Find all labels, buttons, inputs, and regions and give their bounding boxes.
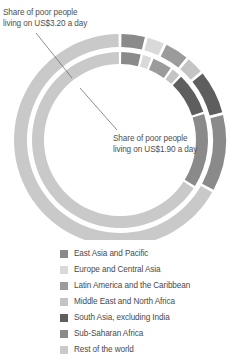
legend-swatch (60, 346, 68, 354)
donut-segment: Share of poor people living on US$3.20 a… (121, 34, 145, 50)
nested-donut-chart: Share of poor people living on US$3.20 a… (0, 0, 232, 240)
donut-segment: Share of poor people living on US$3.20 a… (144, 38, 163, 56)
donut-segment: Share of poor people living on US$3.20 a… (161, 45, 187, 68)
legend-item: Middle East and North Africa (60, 294, 232, 310)
chart-page: Share of poor people living on US$3.20 a… (0, 0, 232, 363)
legend-label: Sub-Saharan Africa (74, 329, 143, 339)
callout-outer-ring: Share of poor people living on US$3.20 a… (3, 7, 87, 29)
legend-label: South Asia, excluding India (74, 313, 170, 323)
legend-item: Rest of the world (60, 342, 232, 358)
donut-segment: Share of poor people living on US$1.90 a… (121, 52, 141, 66)
legend-item: Europe and Central Asia (60, 262, 232, 278)
legend-swatch (60, 314, 68, 322)
donut-segment: Share of poor people living on US$1.90 a… (140, 55, 151, 69)
legend-item: East Asia and Pacific (60, 246, 232, 262)
legend-item: Sub-Saharan Africa (60, 326, 232, 342)
legend-label: Rest of the world (74, 345, 134, 355)
legend-item: Latin America and the Caribbean (60, 278, 232, 294)
legend-swatch (60, 298, 68, 306)
legend-label: Middle East and North Africa (74, 297, 175, 307)
legend-label: East Asia and Pacific (74, 249, 148, 259)
callout-inner-ring: Share of poor people living on US$1.90 a… (113, 133, 197, 155)
legend-swatch (60, 266, 68, 274)
legend-swatch (60, 330, 68, 338)
legend-swatch (60, 282, 68, 290)
donut-segment: Share of poor people living on US$3.20 a… (180, 59, 200, 79)
leader-line-inner (80, 88, 117, 130)
chart-legend: East Asia and PacificEurope and Central … (60, 246, 232, 358)
donut-segment: Share of poor people living on US$1.90 a… (149, 59, 171, 78)
legend-swatch (60, 250, 68, 258)
donut-svg: Share of poor people living on US$3.20 a… (0, 0, 232, 240)
legend-label: Europe and Central Asia (74, 265, 160, 275)
legend-label: Latin America and the Caribbean (74, 281, 190, 291)
legend-item: South Asia, excluding India (60, 310, 232, 326)
